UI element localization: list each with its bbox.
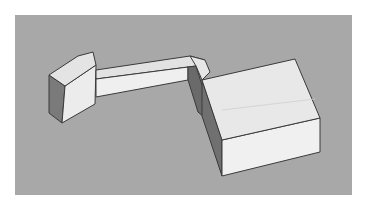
corridor: [96, 56, 210, 118]
small-block: [49, 52, 96, 123]
model-scene: [0, 0, 366, 210]
large-box: [202, 59, 320, 176]
